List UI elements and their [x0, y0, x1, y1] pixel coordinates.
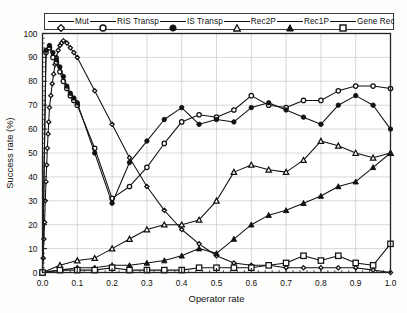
y-tick-label: 10 [28, 244, 38, 254]
data-point-marker [75, 55, 79, 59]
data-point-marker [301, 98, 305, 102]
data-point-marker [52, 72, 56, 76]
data-point-marker [68, 91, 72, 95]
data-point-marker [354, 93, 358, 97]
data-point-marker [49, 94, 53, 98]
x-tick-label: 0.5 [211, 278, 223, 288]
data-point-marker [249, 105, 253, 109]
data-point-marker [318, 258, 323, 263]
y-tick-label: 40 [28, 172, 38, 182]
x-tick-label: 0.7 [280, 278, 292, 288]
x-tick-label: 0.4 [176, 278, 188, 288]
data-point-marker [110, 201, 114, 205]
data-point-marker [61, 74, 65, 78]
data-point-marker [145, 184, 149, 188]
x-tick-label: 0.2 [106, 278, 118, 288]
x-tick-label: 0.3 [141, 278, 153, 288]
y-tick-label: 60 [28, 124, 38, 134]
data-point-marker [162, 141, 166, 145]
x-tick-label: 1.0 [385, 278, 397, 288]
data-point-marker [336, 103, 340, 107]
x-tick-label: 0.1 [71, 278, 83, 288]
data-point-marker [214, 117, 218, 121]
data-point-marker [336, 253, 341, 258]
data-point-marker [145, 165, 149, 169]
data-point-marker [336, 266, 340, 270]
data-point-marker [145, 139, 149, 143]
data-point-marker [371, 84, 375, 88]
data-point-marker [68, 46, 72, 50]
data-point-marker [65, 84, 69, 88]
x-tick-label: 0.6 [245, 278, 257, 288]
chart-plot-area: 01020304050607080901000.00.10.20.30.40.5… [0, 0, 407, 313]
data-point-marker [47, 105, 51, 109]
data-point-marker [45, 163, 49, 167]
data-point-marker [54, 58, 58, 62]
data-point-marker [232, 108, 236, 112]
data-point-marker [301, 266, 305, 270]
data-point-marker [162, 208, 166, 212]
data-point-marker [47, 120, 51, 124]
y-tick-label: 20 [28, 220, 38, 230]
y-tick-label: 100 [24, 29, 38, 39]
data-point-marker [319, 122, 323, 126]
data-point-marker [180, 120, 184, 124]
data-point-marker [371, 103, 375, 107]
data-point-marker [180, 105, 184, 109]
data-point-marker [283, 260, 288, 265]
data-point-marker [370, 263, 375, 268]
x-tick-label: 0.9 [350, 278, 362, 288]
data-point-marker [301, 253, 306, 258]
data-point-marker [180, 227, 184, 231]
data-point-marker [127, 160, 131, 164]
data-point-marker [196, 265, 201, 270]
y-tick-label: 50 [28, 148, 38, 158]
data-point-marker [110, 122, 114, 126]
data-point-marker [44, 48, 48, 52]
data-point-marker [50, 82, 54, 86]
data-point-marker [75, 101, 79, 105]
x-tick-label: 0.8 [315, 278, 327, 288]
data-point-marker [197, 113, 201, 117]
data-point-marker [127, 184, 131, 188]
data-point-marker [232, 120, 236, 124]
data-point-marker [301, 115, 305, 119]
data-point-marker [58, 65, 62, 69]
data-point-marker [231, 265, 236, 270]
y-tick-label: 30 [28, 196, 38, 206]
y-tick-label: 90 [28, 52, 38, 62]
x-axis-title: Operator rate [189, 293, 245, 304]
data-point-marker [45, 146, 49, 150]
data-point-marker [267, 101, 271, 105]
x-tick-label: 0.0 [37, 278, 49, 288]
chart-figure: MutRIS TranspIS TranspRec2PRec1PGene Rec… [0, 0, 407, 313]
data-point-marker [127, 156, 131, 160]
data-point-marker [72, 51, 76, 55]
data-point-marker [353, 260, 358, 265]
data-point-marker [65, 41, 69, 45]
data-point-marker [197, 122, 201, 126]
data-point-marker [56, 48, 60, 52]
data-point-marker [162, 117, 166, 121]
y-tick-label: 70 [28, 100, 38, 110]
data-point-marker [93, 151, 97, 155]
data-point-marker [319, 98, 323, 102]
data-point-marker [72, 96, 76, 100]
data-point-marker [46, 132, 50, 136]
data-point-marker [249, 93, 253, 97]
data-point-marker [93, 89, 97, 93]
y-axis-title: Success rate (%) [4, 117, 15, 188]
data-point-marker [51, 50, 55, 54]
data-point-marker [354, 84, 358, 88]
y-tick-label: 0 [33, 268, 38, 278]
data-point-marker [47, 43, 51, 47]
data-point-marker [336, 89, 340, 93]
data-point-marker [266, 263, 271, 268]
data-point-marker [284, 108, 288, 112]
y-tick-label: 80 [28, 76, 38, 86]
